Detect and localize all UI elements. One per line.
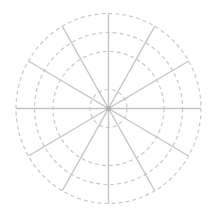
center-point [106, 106, 111, 111]
grid-spoke-6 [109, 109, 155, 191]
grid-spoke-9 [28, 109, 108, 157]
polar-chart [0, 0, 213, 218]
grid-spoke-12 [62, 26, 108, 108]
grid-spoke-8 [62, 109, 108, 191]
grid-spoke-5 [109, 109, 189, 157]
grid-spoke-3 [109, 61, 189, 109]
grid-spoke-11 [28, 61, 108, 109]
grid-spoke-2 [109, 26, 155, 108]
